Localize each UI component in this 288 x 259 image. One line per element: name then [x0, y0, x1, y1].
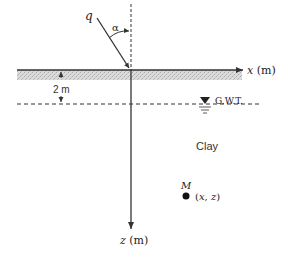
x-axis-label: x (m) [247, 64, 276, 77]
ground-surface-band [17, 70, 242, 80]
gwt-label: G.W.T. [215, 96, 243, 106]
point-m-label: M [180, 180, 192, 191]
point-m-marker [183, 193, 190, 200]
water-table-icon [199, 97, 211, 113]
alpha-label: α [112, 22, 119, 33]
z-axis-label: z (m) [119, 234, 148, 247]
soil-type-label: Clay [196, 140, 219, 152]
point-m-coords: (x, z) [195, 191, 220, 202]
load-q-label: q [85, 9, 93, 23]
soil-stress-diagram: x (m) q α z (m) 2 m G.W.T. Clay M (x, z) [0, 0, 288, 259]
depth-label: 2 m [53, 84, 70, 95]
